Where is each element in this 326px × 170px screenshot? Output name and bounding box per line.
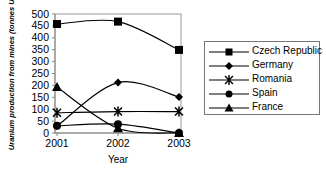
diamond-marker-icon: [209, 60, 249, 72]
x-tick-label: 2003: [167, 137, 191, 149]
circle-marker-icon: [209, 88, 249, 100]
x-axis-label: Year: [108, 154, 129, 165]
legend-item-france: France: [205, 102, 319, 114]
legend-label: Czech Republic: [252, 45, 322, 56]
y-tick-label: 400: [31, 31, 49, 43]
y-tick-label: 50: [37, 115, 49, 127]
legend-item-czech-republic: Czech Republic: [205, 46, 319, 58]
legend-label: Germany: [252, 59, 293, 70]
y-tick-label: 150: [31, 91, 49, 103]
legend-label: France: [252, 101, 283, 112]
y-tick-label: 350: [31, 43, 49, 55]
x-tick-label: 2001: [45, 137, 69, 149]
y-tick-label: 450: [31, 19, 49, 31]
y-tick-label: 100: [31, 103, 49, 115]
y-axis-label: Uranium production from mines (tonnes U): [7, 0, 16, 150]
square-marker-icon: [209, 46, 249, 58]
x-tick-label: 2002: [106, 137, 130, 149]
y-tick-label: 250: [31, 67, 49, 79]
series-czech-republic: [53, 18, 183, 54]
legend-label: Romania: [252, 73, 292, 84]
triangle-marker-icon: [209, 102, 249, 114]
legend-item-germany: Germany: [205, 60, 319, 72]
series-romania: [53, 107, 183, 118]
legend-label: Spain: [252, 87, 278, 98]
legend-item-spain: Spain: [205, 88, 319, 100]
y-tick-label: 200: [31, 79, 49, 91]
y-tick-label: 300: [31, 55, 49, 67]
chart-legend: Czech Republic Germany Romania Spain Fra…: [204, 41, 320, 115]
y-tick-label: 500: [31, 8, 49, 20]
star-marker-icon: [209, 74, 249, 86]
legend-item-romania: Romania: [205, 74, 319, 86]
